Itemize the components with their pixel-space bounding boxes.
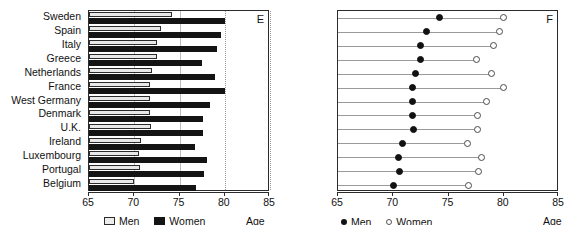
panel-e-age-label: Age xyxy=(246,215,265,225)
category-label: Luxembourg xyxy=(23,150,84,161)
point-women xyxy=(474,112,481,119)
axis-tick-label: 70 xyxy=(127,196,139,208)
bar-group xyxy=(89,151,268,163)
bar-women xyxy=(89,185,196,191)
bar-group xyxy=(89,26,268,38)
legend-label-women: Women xyxy=(169,215,205,225)
dumbbell-row xyxy=(338,115,557,116)
bar-men xyxy=(89,110,150,115)
bar-men xyxy=(89,12,172,17)
connector-line xyxy=(338,157,482,158)
bar-group xyxy=(89,165,268,177)
legend-label-women: Women xyxy=(396,216,432,225)
axis-tick-label: 70 xyxy=(386,196,398,208)
bar-men xyxy=(89,165,140,170)
dumbbell-row xyxy=(338,60,557,61)
bar-group xyxy=(89,68,268,80)
connector-line xyxy=(338,18,504,19)
category-label: Spain xyxy=(54,25,84,36)
figure-root: SwedenSpainItalyGreeceNetherlandsFranceW… xyxy=(0,0,578,225)
bar-group xyxy=(89,138,268,150)
point-women xyxy=(465,182,472,189)
men-swatch-icon xyxy=(104,217,115,225)
bar-men xyxy=(89,179,134,184)
panel-e-legend: Men Women xyxy=(104,215,217,225)
bar-group xyxy=(89,96,268,108)
panel-e-letter: E xyxy=(257,14,264,25)
bar-men xyxy=(89,96,150,101)
point-men xyxy=(412,70,419,77)
bar-men xyxy=(89,26,161,31)
panel-f-letter: F xyxy=(546,14,553,25)
axis-tick-label: 75 xyxy=(173,196,185,208)
bar-group xyxy=(89,54,268,66)
bar-women xyxy=(89,171,204,177)
bar-group xyxy=(89,40,268,52)
dumbbell-row xyxy=(338,46,557,47)
panel-e: SwedenSpainItalyGreeceNetherlandsFranceW… xyxy=(0,10,285,193)
point-men xyxy=(395,154,402,161)
legend-label-men: Men xyxy=(351,216,371,225)
bar-men xyxy=(89,54,157,59)
connector-line xyxy=(338,129,477,130)
connector-line xyxy=(338,88,504,89)
bar-men xyxy=(89,40,157,45)
bar-men xyxy=(89,124,151,129)
bar-women xyxy=(89,32,221,38)
men-dot-icon xyxy=(341,219,347,225)
category-label: Portugal xyxy=(42,164,84,175)
bar-women xyxy=(89,88,225,94)
bar-women xyxy=(89,74,215,80)
legend-item-women: Women xyxy=(154,215,205,225)
category-label: Ireland xyxy=(49,136,84,147)
panel-f-legend: Men Women xyxy=(341,215,444,225)
point-men xyxy=(409,84,416,91)
bar-men xyxy=(89,68,152,73)
point-men xyxy=(410,126,417,133)
point-women xyxy=(490,42,497,49)
point-men xyxy=(409,112,416,119)
category-label: Netherlands xyxy=(24,67,84,78)
category-label-column: SwedenSpainItalyGreeceNetherlandsFranceW… xyxy=(0,10,84,191)
panel-e-plot-area: E xyxy=(88,10,269,191)
bar-group xyxy=(89,110,268,122)
category-label: Denmark xyxy=(38,108,84,119)
dumbbell-row xyxy=(338,102,557,103)
panel-f: F 6570758085 Age Men Women xyxy=(293,10,578,193)
bar-group xyxy=(89,179,268,191)
legend-item-men: Men xyxy=(341,216,371,225)
bar-men xyxy=(89,151,139,156)
connector-line xyxy=(338,46,494,47)
point-women xyxy=(478,154,485,161)
legend-label-men: Men xyxy=(119,215,139,225)
axis-tick-label: 75 xyxy=(442,196,454,208)
legend-item-men: Men xyxy=(104,215,139,225)
point-men xyxy=(409,98,416,105)
dumbbell-row xyxy=(338,32,557,33)
point-men xyxy=(417,56,424,63)
dumbbell-row xyxy=(338,143,557,144)
bar-group xyxy=(89,82,268,94)
bar-women xyxy=(89,102,210,108)
point-men xyxy=(396,168,403,175)
connector-line xyxy=(338,115,477,116)
point-men xyxy=(399,140,406,147)
connector-line xyxy=(338,171,478,172)
legend-item-women: Women xyxy=(386,216,432,225)
dumbbell-row xyxy=(338,129,557,130)
point-women xyxy=(474,126,481,133)
point-women xyxy=(475,168,482,175)
category-label: Italy xyxy=(62,39,84,50)
point-women xyxy=(500,14,507,21)
bar-women xyxy=(89,60,202,66)
connector-line xyxy=(338,185,468,186)
women-circle-icon xyxy=(386,219,392,225)
axis-tick-label: 80 xyxy=(218,196,230,208)
panel-f-plot-area: F xyxy=(337,10,558,191)
bar-group xyxy=(89,12,268,24)
bar-men xyxy=(89,138,141,143)
women-swatch-icon xyxy=(154,217,165,225)
dumbbell-row xyxy=(338,18,557,19)
bar-women xyxy=(89,46,217,52)
point-men xyxy=(390,182,397,189)
